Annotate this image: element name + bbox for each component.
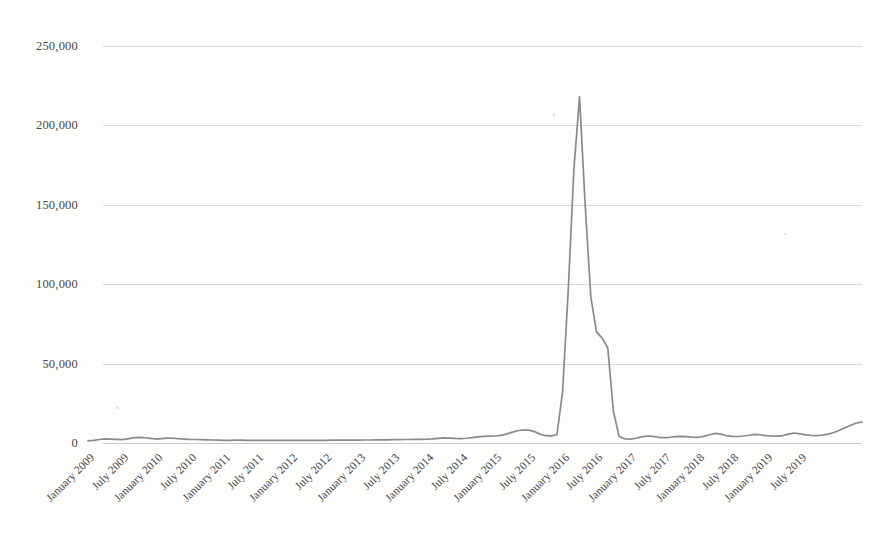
x-axis-labels: January 2009July 2009January 2010July 20… (0, 447, 887, 544)
series-line (88, 97, 862, 441)
x-axis-tick-label: July 2019 (687, 451, 809, 544)
line-chart: 050,000100,000150,000200,000250,000 Janu… (0, 0, 887, 544)
scan-speck (116, 406, 119, 409)
scan-speck (784, 233, 786, 235)
scan-speck (553, 113, 555, 117)
